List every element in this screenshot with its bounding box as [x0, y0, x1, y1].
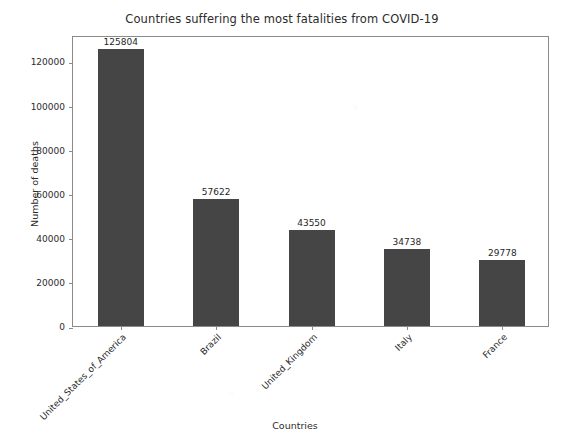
y-tick-label: 80000: [36, 146, 65, 156]
bar[interactable]: [289, 230, 335, 326]
bar[interactable]: [98, 49, 144, 326]
plot-area: Number of deaths 02000040000600008000010…: [72, 36, 549, 327]
x-tick-mark: [407, 326, 408, 330]
bar[interactable]: [193, 199, 239, 326]
bar-value-label: 125804: [104, 37, 138, 47]
y-tick-label: 60000: [36, 190, 65, 200]
bar-group[interactable]: 125804: [98, 35, 144, 326]
chart-title: Countries suffering the most fatalities …: [0, 12, 564, 26]
bar-value-label: 29778: [488, 248, 517, 258]
bar-value-label: 43550: [297, 218, 326, 228]
y-tick-label: 20000: [36, 278, 65, 288]
bar-group[interactable]: 34738: [384, 35, 430, 326]
y-tick-label: 0: [59, 322, 65, 332]
bar-group[interactable]: 29778: [479, 35, 525, 326]
x-tick-mark: [121, 326, 122, 330]
bar-value-label: 34738: [393, 237, 422, 247]
bar-value-label: 57622: [202, 187, 231, 197]
bar-chart-figure: Countries suffering the most fatalities …: [0, 0, 564, 447]
bar-group[interactable]: 57622: [193, 35, 239, 326]
x-tick-mark: [502, 326, 503, 330]
bar-group[interactable]: 43550: [289, 35, 335, 326]
x-tick-mark: [216, 326, 217, 330]
bar[interactable]: [479, 260, 525, 326]
y-tick-label: 120000: [31, 57, 65, 67]
y-tick-label: 40000: [36, 234, 65, 244]
x-tick-mark: [312, 326, 313, 330]
y-tick-label: 100000: [31, 102, 65, 112]
bars-layer: 12580457622435503473829778: [73, 37, 548, 326]
y-tick-mark: [69, 328, 73, 329]
x-axis-title: Countries: [0, 420, 564, 431]
bar[interactable]: [384, 249, 430, 326]
